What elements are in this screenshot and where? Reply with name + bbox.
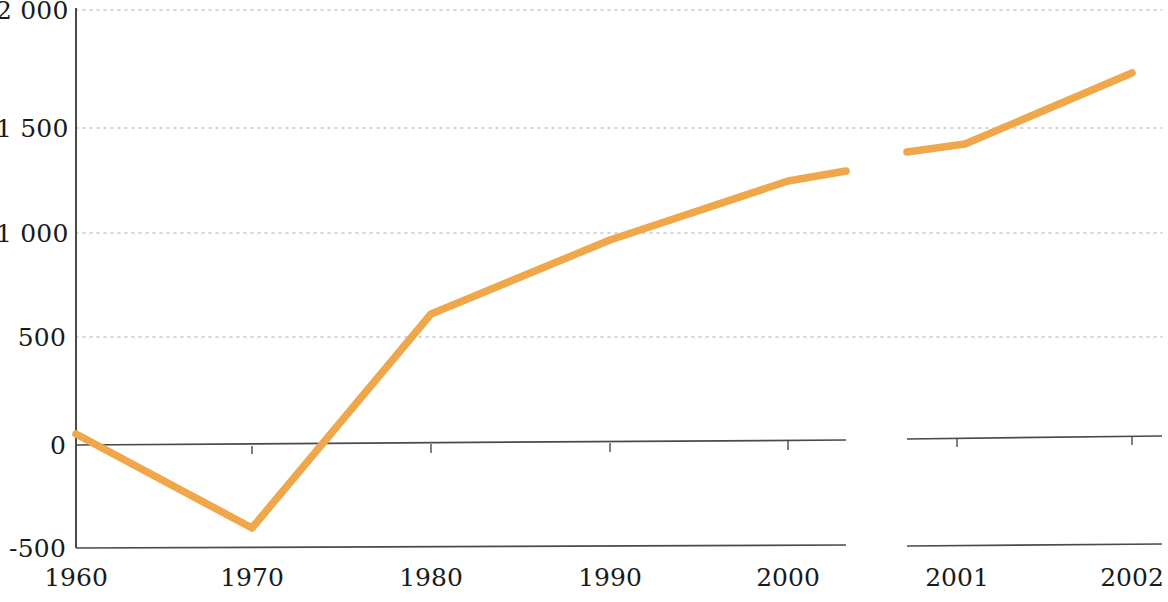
data-line-decades [76, 171, 846, 528]
zero-line-right [907, 436, 1162, 439]
y-tick-label-1000: 1 000 [0, 219, 66, 248]
x-axis-right [907, 544, 1162, 546]
data-line-years [907, 73, 1132, 152]
x-tick-label-1980: 1980 [381, 563, 481, 592]
x-tick-label-1990: 1990 [560, 563, 660, 592]
gridlines [76, 10, 1162, 337]
x-axis-left [76, 545, 846, 548]
x-tick-label-1970: 1970 [202, 563, 302, 592]
y-tick-label-500: 500 [0, 323, 66, 352]
y-tick-label-2000: 2 000 [0, 0, 66, 25]
line-chart: 2 000 1 500 1 000 500 0 -500 1960 1970 1… [0, 0, 1168, 602]
y-tick-label-0: 0 [0, 431, 66, 460]
x-tick-label-2000: 2000 [738, 563, 838, 592]
x-tick-label-1960: 1960 [26, 563, 126, 592]
y-tick-label-1500: 1 500 [0, 114, 66, 143]
chart-plot-area [0, 0, 1168, 602]
zero-line-left [76, 440, 846, 445]
y-tick-label-minus500: -500 [0, 534, 66, 563]
x-tick-label-2002: 2002 [1082, 563, 1168, 592]
x-tick-label-2001: 2001 [907, 563, 1007, 592]
